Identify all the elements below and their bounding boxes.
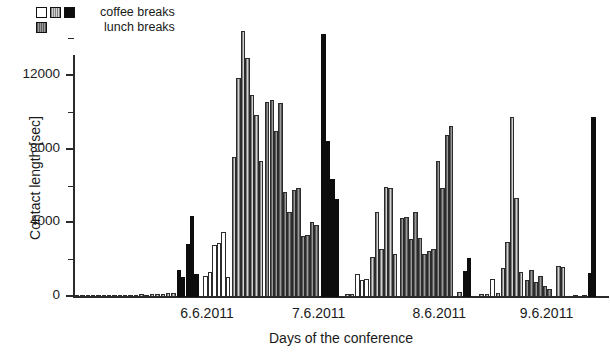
bar-container: [73, 20, 609, 297]
bar-black: [194, 274, 198, 297]
bar-light: [155, 294, 159, 297]
bar-light: [161, 294, 165, 298]
bar-light: [102, 295, 106, 297]
bar-lunch: [449, 126, 453, 297]
bar-light: [150, 294, 154, 297]
bar-light: [91, 295, 95, 297]
bar-light: [118, 295, 122, 297]
x-axis-tick-label: 8.6.2011: [384, 305, 494, 321]
x-axis-tick-label: 7.6.2011: [264, 305, 374, 321]
bar-light: [457, 292, 461, 297]
bar-black: [591, 117, 595, 297]
x-axis-tick-label: 6.6.2011: [152, 305, 262, 321]
bar-light: [112, 295, 116, 297]
bar-light: [166, 293, 170, 297]
bar-light: [128, 295, 132, 297]
bar-light: [171, 293, 175, 297]
bar-light: [485, 294, 489, 297]
bar-lunch: [547, 289, 551, 297]
bar-white: [490, 279, 494, 297]
x-axis-tick-label: 9.6.2011: [491, 305, 601, 321]
bar-light: [496, 293, 500, 297]
bar-white: [226, 277, 230, 297]
bar-light: [519, 272, 523, 297]
bar-lunch: [314, 225, 318, 297]
bar-light: [582, 295, 586, 297]
bar-light: [86, 295, 90, 297]
y-axis-title: Contact length [sec]: [27, 68, 43, 288]
bar-white: [364, 279, 368, 297]
bar-light: [134, 295, 138, 297]
bar-light: [561, 267, 565, 297]
bar-light: [123, 295, 127, 297]
bar-light: [144, 295, 148, 297]
x-axis-title: Days of the conference: [73, 330, 609, 346]
bar-light: [75, 295, 79, 297]
bar-light: [259, 161, 263, 297]
bar-black: [588, 273, 592, 297]
plot-area: 04000800012000 6.6.20117.6.20118.6.20119…: [0, 0, 610, 352]
bar-light: [350, 294, 354, 297]
bar-black: [467, 258, 471, 297]
bar-light: [107, 295, 111, 297]
bar-light: [80, 295, 84, 297]
bar-black: [335, 199, 339, 297]
bar-light: [96, 295, 100, 297]
bar-light: [393, 254, 397, 297]
bar-light: [573, 295, 577, 297]
bar-light: [479, 294, 483, 297]
y-axis-tick-label: 0: [10, 287, 60, 302]
contact-length-bar-chart: coffee breaks lunch breaks 0400080001200…: [0, 0, 610, 352]
bar-light: [139, 294, 143, 297]
